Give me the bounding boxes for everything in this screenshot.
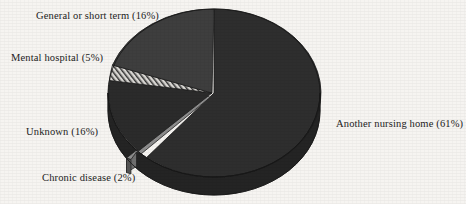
pie-chart-figure: General or short term (16%) Mental hospi… bbox=[0, 0, 466, 204]
slice-label-another-nursing-home: Another nursing home (61%) bbox=[336, 118, 463, 130]
slice-label-general-or-short-term: General or short term (16%) bbox=[36, 10, 159, 22]
slice-label-unknown: Unknown (16%) bbox=[26, 126, 98, 138]
slice-label-chronic-disease: Chronic disease (2%) bbox=[42, 172, 135, 184]
slice-label-mental-hospital: Mental hospital (5%) bbox=[11, 52, 103, 64]
